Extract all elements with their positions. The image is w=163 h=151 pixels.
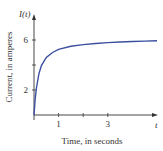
x-tick-label: 3 [106,119,111,129]
x-axis-arrow-icon [152,113,158,117]
current-curve [34,41,157,115]
y-axis-title: Current, in amperes [4,31,14,103]
x-axis-title: Time, in seconds [62,136,123,146]
y-tick-label: 2 [24,85,29,95]
y-tick-label: 6 [24,35,29,45]
y-axis-variable: I(t) [18,9,31,19]
current-chart: 13 26 I(t) t Time, in seconds Current, i… [0,0,163,151]
y-axis-arrow-icon [32,14,36,20]
x-tick-label: 1 [56,119,61,129]
x-axis-variable: t [155,120,158,130]
